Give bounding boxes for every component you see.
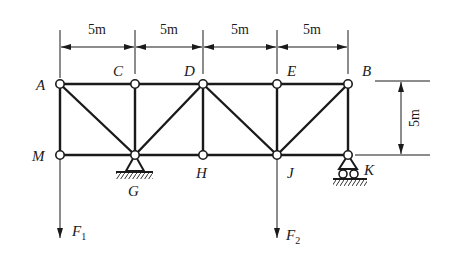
ground-hatch-g [116, 173, 153, 179]
dimension-label-4: 5m [303, 22, 321, 37]
member-dj [203, 84, 277, 155]
label-b: B [362, 63, 371, 79]
label-d: D [183, 63, 195, 79]
label-g: G [128, 183, 139, 199]
top-dimension-group: 5m 5m 5m 5m [60, 22, 348, 78]
loads-group: F1 F2 [60, 158, 300, 246]
label-a: A [35, 77, 46, 93]
member-bj [277, 84, 348, 155]
node-e [273, 80, 281, 88]
dimension-label-1: 5m [88, 22, 106, 37]
node-d [199, 80, 207, 88]
ground-hatch-k [333, 180, 367, 186]
member-dg [135, 84, 203, 155]
node-k [344, 151, 352, 159]
label-c: C [113, 63, 124, 79]
label-h: H [195, 165, 208, 181]
node-a [56, 80, 64, 88]
node-c [131, 80, 139, 88]
node-j [273, 151, 281, 159]
roller-wheel-left [339, 170, 347, 178]
right-dimension-group: 5m [355, 81, 430, 155]
member-ag [60, 84, 135, 155]
load-label-f1: F1 [71, 223, 86, 242]
label-e: E [286, 63, 296, 79]
roller-wheel-right [350, 170, 358, 178]
node-b [344, 80, 352, 88]
node-g [131, 151, 139, 159]
truss-diagram: 5m 5m 5m 5m 5m F1 F2 [0, 0, 456, 259]
node-m [56, 151, 64, 159]
dimension-label-3: 5m [231, 22, 249, 37]
label-k: K [363, 162, 375, 178]
truss-members [60, 84, 348, 155]
label-m: M [31, 148, 46, 164]
dimension-label-2: 5m [160, 22, 178, 37]
label-j: J [287, 165, 295, 181]
roller-support-k [333, 155, 367, 186]
node-h [199, 151, 207, 159]
load-label-f2: F2 [285, 227, 300, 246]
height-dimension-label: 5m [407, 109, 422, 127]
